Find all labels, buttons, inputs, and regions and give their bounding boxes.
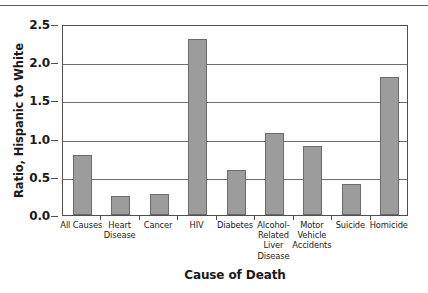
y-axis-tick-mark <box>51 178 58 179</box>
bar <box>73 155 92 215</box>
y-axis-tick-label: 1.5 <box>6 95 50 107</box>
y-axis-tick-mark <box>51 140 58 141</box>
bar <box>188 39 207 215</box>
y-axis-tick-mark <box>51 216 58 217</box>
y-axis-tick-label: 0.5 <box>6 172 50 184</box>
gridline <box>63 141 407 142</box>
bar <box>303 146 322 215</box>
gridline <box>63 64 407 65</box>
y-axis-tick-mark <box>51 101 58 102</box>
x-axis-category-label-line: Homicide <box>366 220 412 230</box>
x-axis-category-label-line: Disease <box>96 230 142 240</box>
x-axis-category-label-line: Disease <box>250 251 296 261</box>
y-axis-tick-group: 0.00.51.01.52.02.5 <box>0 0 62 293</box>
plot-area <box>62 25 408 216</box>
x-axis-category-labels: All CausesHeartDiseaseCancerHIVDiabetesA… <box>62 220 408 270</box>
gridline <box>63 102 407 103</box>
y-axis-tick-label: 1.0 <box>6 134 50 146</box>
x-axis-category-label-line: Vehicle <box>289 230 335 240</box>
bar <box>150 194 169 215</box>
x-axis-category-label-line: Accidents <box>289 240 335 250</box>
x-axis-title: Cause of Death <box>62 268 408 282</box>
y-axis-tick-mark <box>51 25 58 26</box>
header-divider-rule <box>0 5 428 6</box>
bar <box>227 170 246 215</box>
bar <box>342 184 361 215</box>
y-axis-tick-label: 2.5 <box>6 19 50 31</box>
bar <box>380 77 399 215</box>
bar-chart-figure: Ratio, Hispanic to White 0.00.51.01.52.0… <box>0 0 428 293</box>
bar <box>111 196 130 215</box>
y-axis-tick-label: 2.0 <box>6 57 50 69</box>
bar <box>265 133 284 216</box>
x-axis-category-label: Homicide <box>366 220 412 230</box>
y-axis-tick-label: 0.0 <box>6 210 50 222</box>
y-axis-tick-mark <box>51 63 58 64</box>
